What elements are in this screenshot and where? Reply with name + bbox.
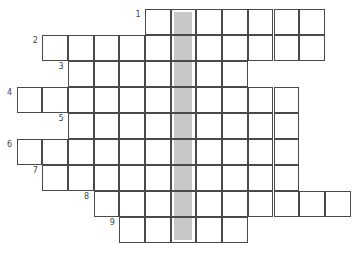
grid-cell[interactable] (248, 9, 274, 35)
highlight-shade (174, 12, 193, 34)
grid-cell[interactable] (274, 35, 300, 61)
grid-cell[interactable] (145, 61, 171, 87)
grid-cell[interactable] (145, 191, 171, 217)
grid-cell[interactable] (42, 165, 68, 191)
grid-cell[interactable] (145, 35, 171, 61)
grid-cell[interactable] (145, 139, 171, 165)
grid-cell[interactable] (94, 87, 120, 113)
highlighted-cell[interactable] (171, 87, 197, 113)
clue-number: 7 (33, 167, 38, 175)
grid-cell[interactable] (196, 139, 222, 165)
grid-cell[interactable] (94, 139, 120, 165)
grid-cell[interactable] (145, 9, 171, 35)
grid-cell[interactable] (119, 35, 145, 61)
highlight-shade (174, 192, 193, 216)
grid-cell[interactable] (196, 87, 222, 113)
grid-cell[interactable] (274, 191, 300, 217)
grid-cell[interactable] (222, 61, 248, 87)
grid-cell[interactable] (274, 9, 300, 35)
grid-cell[interactable] (222, 9, 248, 35)
grid-cell[interactable] (94, 191, 120, 217)
highlighted-cell[interactable] (171, 139, 197, 165)
grid-cell[interactable] (248, 113, 274, 139)
grid-cell[interactable] (299, 35, 325, 61)
highlighted-cell[interactable] (171, 165, 197, 191)
grid-cell[interactable] (222, 87, 248, 113)
grid-cell[interactable] (196, 9, 222, 35)
clue-number: 5 (58, 115, 63, 123)
clue-number: 9 (110, 219, 115, 227)
grid-cell[interactable] (222, 217, 248, 243)
grid-cell[interactable] (145, 113, 171, 139)
highlight-shade (174, 88, 193, 112)
grid-cell[interactable] (68, 35, 94, 61)
grid-cell[interactable] (17, 87, 43, 113)
grid-cell[interactable] (196, 165, 222, 191)
grid-cell[interactable] (68, 113, 94, 139)
grid-cell[interactable] (94, 165, 120, 191)
clue-number: 3 (58, 63, 63, 71)
highlight-shade (174, 36, 193, 60)
grid-cell[interactable] (299, 9, 325, 35)
grid-cell[interactable] (248, 191, 274, 217)
clue-number: 1 (136, 11, 141, 19)
grid-cell[interactable] (119, 217, 145, 243)
grid-cell[interactable] (17, 139, 43, 165)
highlighted-cell[interactable] (171, 217, 197, 243)
grid-cell[interactable] (196, 35, 222, 61)
clue-number: 4 (7, 89, 12, 97)
highlighted-cell[interactable] (171, 191, 197, 217)
grid-cell[interactable] (274, 87, 300, 113)
grid-cell[interactable] (145, 87, 171, 113)
highlighted-cell[interactable] (171, 35, 197, 61)
highlight-shade (174, 114, 193, 138)
grid-cell[interactable] (222, 191, 248, 217)
clue-number: 8 (84, 193, 89, 201)
grid-cell[interactable] (42, 87, 68, 113)
grid-cell[interactable] (42, 35, 68, 61)
grid-cell[interactable] (248, 139, 274, 165)
grid-cell[interactable] (94, 113, 120, 139)
grid-cell[interactable] (248, 165, 274, 191)
clue-number: 6 (7, 141, 12, 149)
grid-cell[interactable] (222, 165, 248, 191)
grid-cell[interactable] (222, 139, 248, 165)
grid-cell[interactable] (222, 113, 248, 139)
grid-cell[interactable] (325, 191, 351, 217)
highlighted-cell[interactable] (171, 61, 197, 87)
grid-cell[interactable] (94, 61, 120, 87)
highlight-shade (174, 140, 193, 164)
highlighted-cell[interactable] (171, 113, 197, 139)
grid-cell[interactable] (299, 191, 325, 217)
grid-cell[interactable] (119, 113, 145, 139)
highlight-shade (174, 218, 193, 240)
grid-cell[interactable] (274, 139, 300, 165)
grid-cell[interactable] (42, 139, 68, 165)
grid-cell[interactable] (196, 191, 222, 217)
grid-cell[interactable] (248, 87, 274, 113)
highlight-shade (174, 62, 193, 86)
grid-cell[interactable] (196, 61, 222, 87)
clue-number: 2 (33, 37, 38, 45)
highlight-shade (174, 166, 193, 190)
grid-cell[interactable] (145, 165, 171, 191)
grid-cell[interactable] (68, 87, 94, 113)
grid-cell[interactable] (274, 113, 300, 139)
grid-cell[interactable] (119, 165, 145, 191)
grid-cell[interactable] (68, 165, 94, 191)
grid-cell[interactable] (222, 35, 248, 61)
grid-cell[interactable] (119, 61, 145, 87)
crossword-grid: 123456789 (0, 0, 358, 253)
grid-cell[interactable] (274, 165, 300, 191)
grid-cell[interactable] (119, 87, 145, 113)
grid-cell[interactable] (68, 139, 94, 165)
grid-cell[interactable] (145, 217, 171, 243)
grid-cell[interactable] (248, 35, 274, 61)
grid-cell[interactable] (119, 139, 145, 165)
grid-cell[interactable] (196, 217, 222, 243)
grid-cell[interactable] (68, 61, 94, 87)
grid-cell[interactable] (119, 191, 145, 217)
grid-cell[interactable] (196, 113, 222, 139)
grid-cell[interactable] (94, 35, 120, 61)
highlighted-cell[interactable] (171, 9, 197, 35)
